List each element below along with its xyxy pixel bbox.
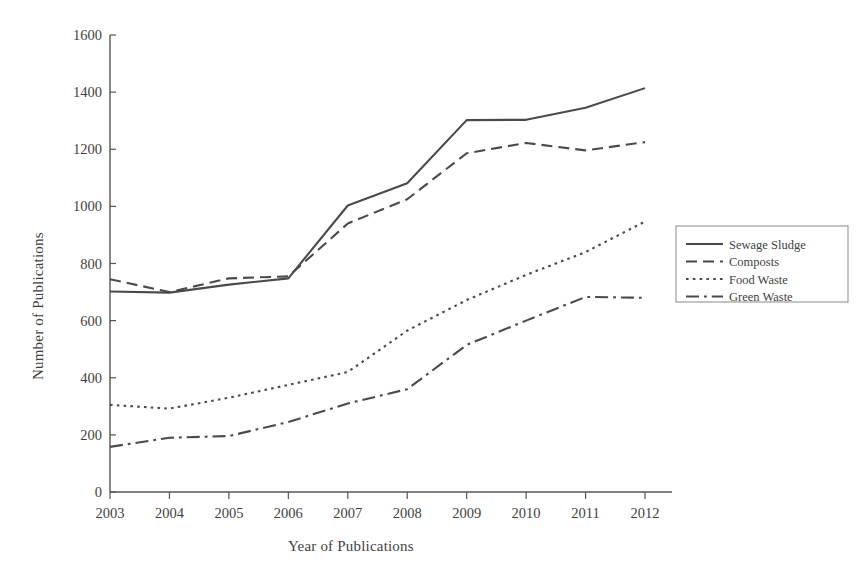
series-line-green-waste [110,297,645,447]
y-tick-label: 200 [80,427,102,443]
x-tick-label: 2005 [214,505,243,521]
x-tick-label: 2003 [96,505,125,521]
x-tick-label: 2004 [155,505,185,521]
legend-label-sewage-sludge: Sewage Sludge [729,238,806,252]
legend-label-green-waste: Green Waste [729,290,793,304]
x-tick-label: 2011 [571,505,599,521]
y-tick-label: 400 [80,370,102,386]
x-tick-label: 2008 [393,505,422,521]
x-tick-label: 2006 [274,505,303,521]
y-tick-label: 1600 [73,27,102,43]
y-tick-label: 0 [95,484,102,500]
x-tick-label: 2012 [631,505,660,521]
series-line-composts [110,142,645,292]
x-axis-ticks: 2003200420052006200720082009201020112012 [96,492,660,521]
x-tick-label: 2007 [333,505,362,521]
chart-legend: Sewage SludgeCompostsFood WasteGreen Was… [676,226,848,304]
series-line-sewage-sludge [110,88,645,293]
legend-label-composts: Composts [729,255,779,269]
line-chart-plot: 02004006008001000120014001600 2003200420… [0,0,857,576]
legend-label-food-waste: Food Waste [729,273,788,287]
x-tick-label: 2009 [452,505,481,521]
data-series-group [110,88,645,447]
axis-lines [110,35,672,492]
series-line-food-waste [110,222,645,409]
x-tick-label: 2010 [512,505,541,521]
y-tick-label: 600 [80,313,102,329]
y-tick-label: 800 [80,256,102,272]
y-tick-label: 1400 [73,84,102,100]
chart-figure: Number of Publications Year of Publicati… [0,0,857,576]
y-tick-label: 1000 [73,198,102,214]
y-tick-label: 1200 [73,141,102,157]
